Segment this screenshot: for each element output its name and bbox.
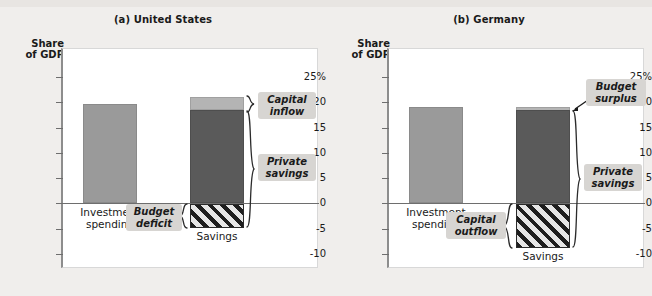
tick-mark-20 bbox=[56, 102, 63, 103]
tick-label-b-neg10: -10 bbox=[600, 248, 652, 259]
panel-germany: (b) Germany Share of GDP 25% 20 15 10 5 … bbox=[326, 0, 652, 296]
tick-label-neg10: -10 bbox=[274, 248, 326, 259]
tick-mark-neg10 bbox=[56, 254, 63, 255]
tick-label-b-neg5: -5 bbox=[600, 223, 652, 234]
tick-label-15: 15 bbox=[274, 122, 326, 133]
bar-capital-inflow bbox=[190, 97, 244, 110]
bar-private-savings-a bbox=[190, 110, 244, 203]
tick-mark-15 bbox=[56, 128, 63, 129]
bar-investment-spending-a bbox=[83, 104, 137, 203]
tick-label-b-10: 10 bbox=[600, 147, 652, 158]
tick-mark-b-10 bbox=[382, 153, 389, 154]
y-axis-ticks-a: 25% 20 15 10 5 0 -5 -10 bbox=[0, 0, 326, 296]
tick-mark-25 bbox=[56, 77, 63, 78]
callout-private-savings-a: Private savings bbox=[258, 154, 316, 181]
tick-mark-b-neg10 bbox=[382, 254, 389, 255]
y-axis-ticks-b: 25% 20 15 10 5 0 -5 -10 bbox=[326, 0, 652, 296]
tick-label-b-15: 15 bbox=[600, 122, 652, 133]
tick-label-25: 25% bbox=[274, 71, 326, 82]
callout-capital-inflow: Capital inflow bbox=[258, 92, 316, 119]
tick-mark-b-5 bbox=[382, 178, 389, 179]
panel-united-states: (a) United States Share of GDP 25% 20 15… bbox=[0, 0, 326, 296]
brace-private-savings-a bbox=[246, 110, 256, 228]
bar-capital-outflow bbox=[516, 204, 570, 248]
callout-private-savings-b: Private savings bbox=[584, 164, 642, 191]
tick-mark-10 bbox=[56, 153, 63, 154]
callout-budget-surplus: Budget surplus bbox=[586, 79, 646, 106]
tick-mark-neg5 bbox=[56, 229, 63, 230]
bar-budget-deficit bbox=[190, 204, 244, 228]
tick-mark-b-15 bbox=[382, 128, 389, 129]
tick-label-neg5: -5 bbox=[274, 223, 326, 234]
tick-mark-b-neg5 bbox=[382, 229, 389, 230]
bar-investment-spending-b bbox=[409, 107, 463, 203]
callout-budget-deficit: Budget deficit bbox=[126, 204, 182, 231]
tick-mark-b-25 bbox=[382, 77, 389, 78]
callout-capital-outflow: Capital outflow bbox=[446, 212, 506, 239]
bar-label-savings-a: Savings bbox=[185, 230, 249, 242]
brace-private-savings-b bbox=[572, 110, 582, 248]
tick-mark-5 bbox=[56, 178, 63, 179]
tick-mark-b-20 bbox=[382, 102, 389, 103]
bar-label-savings-b: Savings bbox=[511, 250, 575, 262]
bar-private-savings-b bbox=[516, 110, 570, 203]
figure-root: (a) United States Share of GDP 25% 20 15… bbox=[0, 0, 652, 296]
